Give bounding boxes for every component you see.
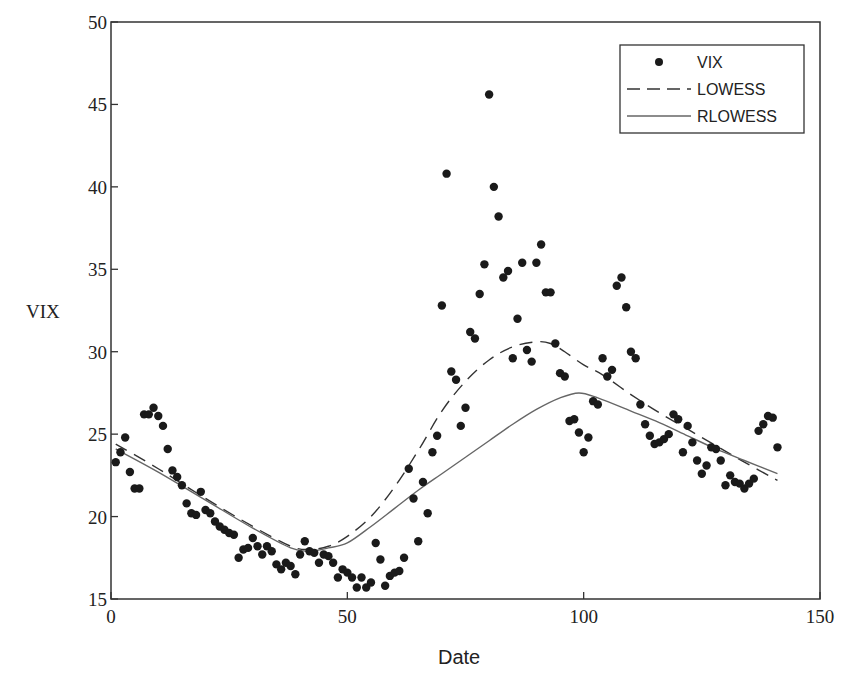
vix-data-point [504, 267, 512, 275]
vix-data-point [665, 430, 673, 438]
y-tick-label: 20 [88, 507, 107, 528]
vix-data-point [683, 422, 691, 430]
vix-data-point [182, 499, 190, 507]
vix-data-point [329, 559, 337, 567]
vix-data-point [159, 422, 167, 430]
vix-data-point [164, 445, 172, 453]
vix-data-point [613, 282, 621, 290]
vix-data-point [371, 539, 379, 547]
vix-data-point [268, 547, 276, 555]
vix-data-point [532, 258, 540, 266]
vix-data-point [513, 315, 521, 323]
vix-data-point [112, 458, 120, 466]
legend-marker-icon [655, 58, 663, 66]
vix-data-point [405, 465, 413, 473]
legend-label-vix: VIX [697, 54, 723, 71]
vix-data-point [561, 372, 569, 380]
vix-data-point [376, 555, 384, 563]
vix-data-point [334, 573, 342, 581]
vix-data-point [414, 537, 422, 545]
vix-data-point [631, 354, 639, 362]
vix-data-point [641, 420, 649, 428]
x-tick-label: 150 [806, 606, 835, 627]
vix-data-point [546, 288, 554, 296]
vix-data-point [192, 511, 200, 519]
vix-data-point [357, 573, 365, 581]
vix-data-point [570, 415, 578, 423]
vix-data-point [433, 432, 441, 440]
vix-data-point [367, 578, 375, 586]
vix-data-point [721, 481, 729, 489]
vix-data-point [551, 339, 559, 347]
x-tick-label: 50 [338, 606, 357, 627]
y-tick-label: 50 [88, 12, 107, 33]
vix-data-point [636, 400, 644, 408]
vix-data-point [475, 290, 483, 298]
vix-data-point [400, 554, 408, 562]
vix-data-point [537, 240, 545, 248]
vix-data-point [773, 443, 781, 451]
vix-data-point [230, 531, 238, 539]
vix-data-point [116, 448, 124, 456]
chart: 0501001501520253035404550 VIX Date VIX L… [0, 0, 852, 684]
vix-data-point [674, 415, 682, 423]
vix-data-point [428, 448, 436, 456]
vix-data-point [286, 562, 294, 570]
vix-data-point [310, 549, 318, 557]
vix-data-point [527, 357, 535, 365]
legend-label-rlowess: RLOWESS [697, 108, 777, 125]
y-tick-label: 35 [88, 259, 107, 280]
vix-data-point [234, 554, 242, 562]
vix-data-point [622, 303, 630, 311]
vix-data-point [381, 582, 389, 590]
vix-data-point [471, 334, 479, 342]
vix-data-point [712, 445, 720, 453]
vix-data-point [490, 183, 498, 191]
vix-data-point [301, 537, 309, 545]
vix-data-point [452, 376, 460, 384]
vix-data-point [679, 448, 687, 456]
vix-data-point [584, 433, 592, 441]
vix-data-point [518, 258, 526, 266]
vix-data-point [173, 473, 181, 481]
vix-data-point [249, 534, 257, 542]
vix-data-point [608, 366, 616, 374]
x-tick-label: 100 [569, 606, 598, 627]
vix-data-point [509, 354, 517, 362]
vix-data-point [461, 404, 469, 412]
vix-data-point [457, 422, 465, 430]
vix-data-point [759, 420, 767, 428]
y-tick-label: 25 [88, 424, 107, 445]
legend: VIX LOWESS RLOWESS [620, 45, 804, 133]
vix-data-point [594, 400, 602, 408]
x-axis-label: Date [438, 646, 480, 668]
vix-data-point [442, 169, 450, 177]
vix-data-point [126, 468, 134, 476]
vix-data-point [575, 428, 583, 436]
y-tick-label: 30 [88, 342, 107, 363]
vix-data-point [447, 367, 455, 375]
vix-data-point [296, 550, 304, 558]
vix-data-point [348, 573, 356, 581]
vix-data-point [315, 559, 323, 567]
vix-data-point [244, 544, 252, 552]
vix-data-point [646, 432, 654, 440]
vix-data-point [688, 438, 696, 446]
vix-data-point [178, 481, 186, 489]
vix-data-point [206, 509, 214, 517]
vix-data-point [523, 346, 531, 354]
vix-data-point [598, 354, 606, 362]
x-tick-label: 0 [106, 606, 116, 627]
y-tick-label: 45 [88, 94, 107, 115]
vix-data-point [579, 448, 587, 456]
vix-data-point [494, 212, 502, 220]
vix-data-point [253, 542, 261, 550]
vix-data-point [769, 413, 777, 421]
vix-data-point [717, 456, 725, 464]
vix-data-point [409, 494, 417, 502]
y-axis-label: VIX [26, 301, 60, 322]
vix-data-point [750, 474, 758, 482]
legend-label-lowess: LOWESS [697, 81, 765, 98]
vix-data-point [121, 433, 129, 441]
vix-data-point [258, 550, 266, 558]
